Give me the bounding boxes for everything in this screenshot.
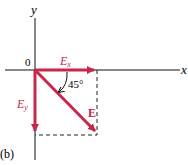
y-axis-label: y <box>31 3 37 16</box>
vector-e <box>35 70 95 131</box>
ey-label: Ey <box>17 98 28 112</box>
origin-label: 0 <box>25 57 31 68</box>
e-label: E <box>88 107 96 119</box>
ex-label: Ex <box>60 55 71 69</box>
panel-label: (b) <box>0 148 14 160</box>
x-axis-label: x <box>181 63 187 76</box>
angle-label: 45° <box>68 79 83 90</box>
angle-arc <box>59 72 67 92</box>
vector-diagram <box>0 0 188 165</box>
